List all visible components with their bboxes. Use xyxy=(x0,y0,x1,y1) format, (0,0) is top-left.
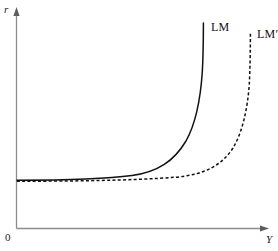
x-axis-label: Y xyxy=(266,234,272,245)
lm-curve xyxy=(17,23,203,180)
origin-label: 0 xyxy=(5,232,11,243)
y-axis-label: r xyxy=(4,4,8,15)
x-axis-arrowhead xyxy=(260,225,269,231)
plot-canvas xyxy=(0,0,278,251)
lm-curve-figure: r Y 0 LM LM′ xyxy=(0,0,278,251)
y-axis-arrowhead xyxy=(13,7,19,16)
lm-prime-curve-label: LM′ xyxy=(257,28,278,40)
x-axis xyxy=(17,225,270,231)
lm-curve-label: LM xyxy=(211,21,229,33)
lm-prime-curve xyxy=(17,32,250,181)
y-axis xyxy=(13,7,19,229)
